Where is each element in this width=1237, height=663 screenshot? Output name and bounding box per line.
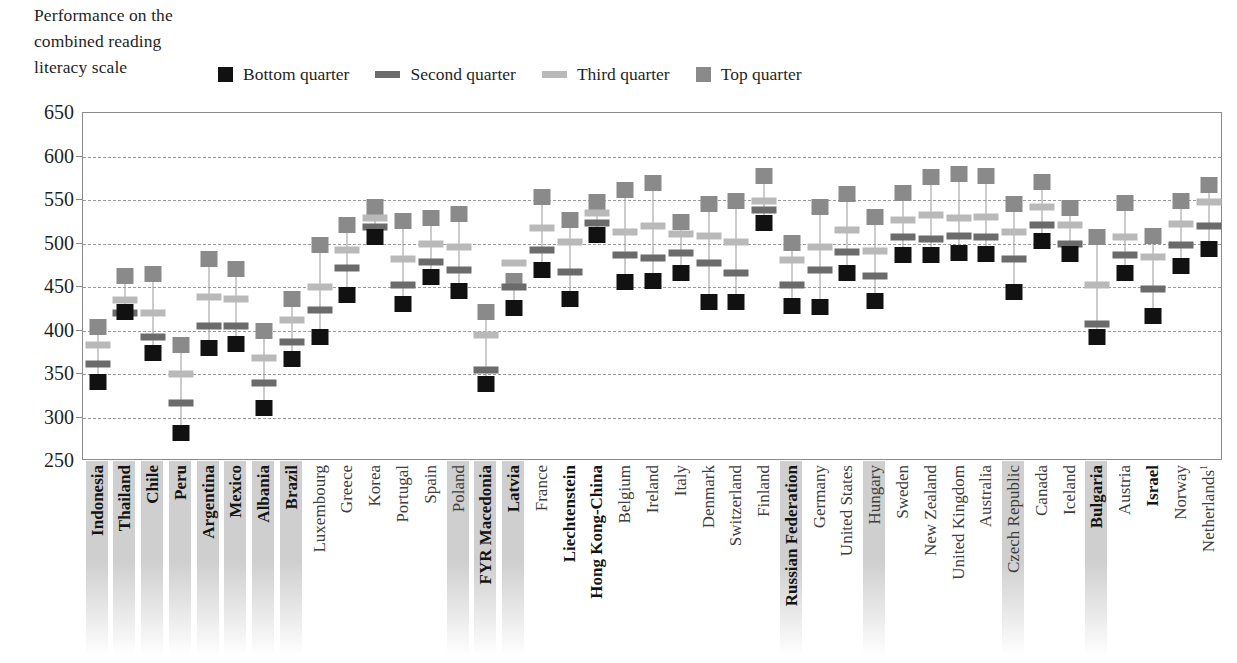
marker-bottom-quarter <box>311 329 328 345</box>
category-label-cell[interactable]: Peru <box>169 461 191 656</box>
category-label-cell[interactable]: Czech Republic <box>1002 461 1024 656</box>
marker-second-quarter <box>529 247 554 254</box>
gridline-350 <box>83 374 1221 375</box>
y-tick-mark-450 <box>76 286 82 287</box>
marker-third-quarter <box>224 296 249 303</box>
category-label-cell[interactable]: Belgium <box>613 461 635 656</box>
category-label-cell[interactable]: Indonesia <box>86 461 108 656</box>
category-label-cell[interactable]: Norway <box>1169 461 1191 656</box>
marker-bottom-quarter <box>200 340 217 356</box>
marker-second-quarter <box>890 234 915 241</box>
category-label: Bulgaria <box>1088 465 1105 528</box>
marker-bottom-quarter <box>1061 246 1078 262</box>
range-stem <box>625 190 626 281</box>
category-label-cell[interactable]: Bulgaria <box>1085 461 1107 656</box>
marker-second-quarter <box>779 282 804 289</box>
category-label-cell[interactable]: Hong Kong-China <box>585 461 607 656</box>
category-label-cell[interactable]: Switzerland <box>724 461 746 656</box>
marker-second-quarter <box>1113 251 1138 258</box>
category-label-cell[interactable]: Finland <box>752 461 774 656</box>
category-label-cell[interactable]: Poland <box>447 461 469 656</box>
category-label-cell[interactable]: Korea <box>363 461 385 656</box>
y-tick-label-600: 600 <box>18 144 74 167</box>
marker-bottom-quarter <box>839 265 856 281</box>
marker-third-quarter <box>418 240 443 247</box>
category-label-cell[interactable]: Australia <box>974 461 996 656</box>
marker-top-quarter <box>950 166 967 182</box>
chart-root: Performance on the combined reading lite… <box>0 0 1237 663</box>
category-label-cell[interactable]: United States <box>835 461 857 656</box>
marker-top-quarter <box>1117 195 1134 211</box>
category-label-cell[interactable]: Brazil <box>280 461 302 656</box>
marker-top-quarter <box>145 266 162 282</box>
marker-third-quarter <box>474 331 499 338</box>
marker-second-quarter <box>279 338 304 345</box>
category-label-cell[interactable]: Greece <box>335 461 357 656</box>
marker-bottom-quarter <box>478 376 495 392</box>
category-label-cell[interactable]: Thailand <box>113 461 135 656</box>
category-label-cell[interactable]: Denmark <box>697 461 719 656</box>
marker-bottom-quarter <box>700 294 717 310</box>
range-stem <box>1152 236 1153 316</box>
category-label-cell[interactable]: Canada <box>1030 461 1052 656</box>
category-label-cell[interactable]: Chile <box>141 461 163 656</box>
category-label-cell[interactable]: Luxembourg <box>308 461 330 656</box>
category-label-cell[interactable]: Israel <box>1141 461 1163 656</box>
category-label-cell[interactable]: Italy <box>669 461 691 656</box>
marker-third-quarter <box>696 232 721 239</box>
category-label-cell[interactable]: Portugal <box>391 461 413 656</box>
range-stem <box>291 299 292 359</box>
marker-bottom-quarter <box>533 262 550 278</box>
category-label-cell[interactable]: Austria <box>1113 461 1135 656</box>
range-stem <box>319 245 320 337</box>
category-label-cell[interactable]: Liechtenstein <box>558 461 580 656</box>
category-label: Ireland <box>644 465 661 513</box>
y-tick-label-350: 350 <box>18 362 74 385</box>
category-label-cell[interactable]: Spain <box>419 461 441 656</box>
marker-bottom-quarter <box>922 247 939 263</box>
category-label-cell[interactable]: United Kingdom <box>947 461 969 656</box>
y-tick-mark-500 <box>76 243 82 244</box>
range-stem <box>736 201 737 302</box>
category-label-cell[interactable]: Netherlands1 <box>1197 461 1219 656</box>
category-label-cell[interactable]: Argentina <box>197 461 219 656</box>
category-label-cell[interactable]: New Zealand <box>919 461 941 656</box>
marker-bottom-quarter <box>1200 241 1217 257</box>
marker-second-quarter <box>85 361 110 368</box>
category-label-cell[interactable]: France <box>530 461 552 656</box>
range-stem <box>1180 201 1181 266</box>
gridline-400 <box>83 331 1221 332</box>
category-label-cell[interactable]: Iceland <box>1058 461 1080 656</box>
category-label-cell[interactable]: Hungary <box>863 461 885 656</box>
marker-top-quarter <box>1033 174 1050 190</box>
category-label-cell[interactable]: Germany <box>808 461 830 656</box>
plot-area <box>82 112 1222 460</box>
range-stem <box>541 197 542 271</box>
marker-top-quarter <box>700 196 717 212</box>
marker-third-quarter <box>641 223 666 230</box>
marker-bottom-quarter <box>950 245 967 261</box>
marker-top-quarter <box>311 237 328 253</box>
marker-third-quarter <box>1113 234 1138 241</box>
marker-bottom-quarter <box>145 345 162 361</box>
category-label-cell[interactable]: FYR Macedonia <box>474 461 496 656</box>
y-tick-mark-550 <box>76 199 82 200</box>
category-label-cell[interactable]: Albania <box>252 461 274 656</box>
category-footnote-marker: 1 <box>1198 465 1209 470</box>
category-label: Iceland <box>1060 465 1077 515</box>
marker-top-quarter <box>422 210 439 226</box>
marker-bottom-quarter <box>228 336 245 352</box>
range-stem <box>347 225 348 295</box>
marker-second-quarter <box>196 323 221 330</box>
marker-second-quarter <box>613 251 638 258</box>
marker-second-quarter <box>585 219 610 226</box>
category-label-cell[interactable]: Sweden <box>891 461 913 656</box>
category-label-cell[interactable]: Russian Federation <box>780 461 802 656</box>
marker-third-quarter <box>974 214 999 221</box>
range-stem <box>458 214 459 291</box>
marker-top-quarter <box>1061 200 1078 216</box>
category-label-cell[interactable]: Mexico <box>224 461 246 656</box>
category-label-cell[interactable]: Latvia <box>502 461 524 656</box>
category-label-cell[interactable]: Ireland <box>641 461 663 656</box>
gridline-300 <box>83 418 1221 419</box>
